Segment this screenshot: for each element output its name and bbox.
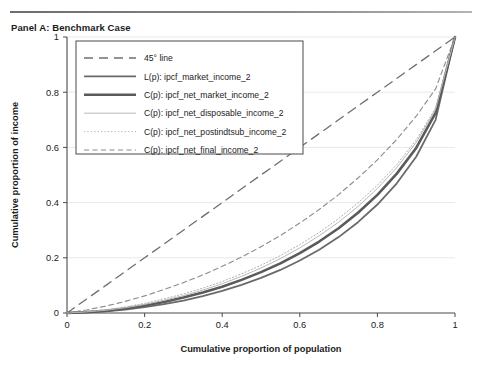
x-tick-label: 0.2 — [138, 320, 151, 330]
legend-label-0: 45° line — [144, 53, 173, 63]
y-tick-label: 0 — [54, 308, 59, 318]
y-axis-label: Cumulative proportion of income — [10, 102, 20, 248]
y-tick-label: 0.8 — [46, 88, 59, 98]
x-tick-label: 0 — [64, 320, 69, 330]
x-tick-label: 0.6 — [293, 320, 306, 330]
x-tick-label: 0.8 — [371, 320, 384, 330]
y-tick-label: 0.2 — [46, 253, 59, 263]
x-tick-label: 1 — [452, 320, 457, 330]
lorenz-curve-chart: 00.20.40.60.8100.20.40.60.81 Cumulative … — [0, 0, 486, 374]
chart-container: 00.20.40.60.8100.20.40.60.81 Cumulative … — [0, 0, 486, 374]
legend-label-4: C(p): ipcf_net_postindtsub_income_2 — [144, 127, 287, 137]
y-tick-label: 0.4 — [46, 198, 59, 208]
legend-label-5: C(p): ipcf_net_final_income_2 — [144, 145, 258, 155]
chart-legend: 45° lineL(p): ipcf_market_income_2C(p): … — [76, 41, 303, 155]
legend-label-2: C(p): ipcf_net_market_income_2 — [144, 90, 269, 100]
y-tick-label: 0.6 — [46, 143, 59, 153]
x-tick-label: 0.4 — [216, 320, 229, 330]
x-axis-label: Cumulative proportion of population — [180, 344, 341, 354]
legend-label-1: L(p): ipcf_market_income_2 — [144, 72, 251, 82]
legend-label-3: C(p): ipcf_net_disposable_income_2 — [144, 108, 284, 118]
y-tick-label: 1 — [54, 32, 59, 42]
